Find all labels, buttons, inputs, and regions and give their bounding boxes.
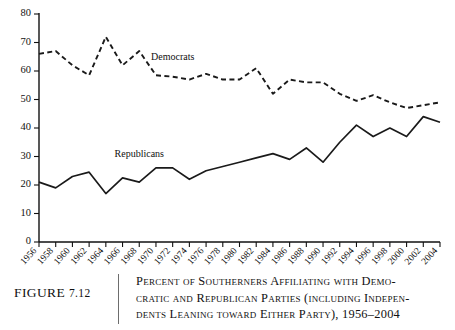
y-tick-label: 20 [21, 178, 32, 189]
series-line-democrats [39, 37, 440, 108]
series-label-republicans: Republicans [115, 148, 165, 159]
x-tick-label: 1970 [135, 245, 155, 265]
x-tick-label: 2002 [403, 245, 423, 265]
caption-line-2: cratic and Republican Parties (including… [136, 290, 447, 307]
figure-container: 0102030405060708019561958196019621964196… [0, 0, 455, 330]
figure-number: FIGURE 7.12 [0, 272, 118, 301]
y-tick-label: 40 [21, 121, 32, 132]
x-tick-label: 1980 [219, 245, 239, 265]
caption-line-1: Percent of Southerners Affiliating with … [136, 273, 447, 290]
y-tick-label: 10 [21, 207, 32, 218]
series-line-republicans [39, 117, 440, 194]
x-tick-label: 1984 [252, 245, 272, 265]
y-tick-label: 80 [21, 7, 32, 18]
caption-text: Percent of Southerners Affiliating with … [119, 272, 455, 323]
y-tick-label: 0 [26, 235, 31, 246]
caption-line-3: dents Leaning toward Either Party), 1956… [136, 306, 447, 323]
series-label-democrats: Democrats [151, 51, 194, 62]
x-tick-label: 1988 [286, 245, 306, 265]
x-tick-label: 2004 [419, 245, 439, 265]
x-tick-label: 1974 [169, 245, 189, 265]
x-tick-label: 1956 [18, 245, 38, 265]
x-tick-label: 1968 [119, 245, 139, 265]
x-tick-label: 1994 [336, 245, 356, 265]
x-tick-label: 1978 [202, 245, 222, 265]
x-tick-label: 1962 [68, 245, 88, 265]
x-tick-label: 1960 [52, 245, 72, 265]
chart-plot-area: 0102030405060708019561958196019621964196… [0, 0, 455, 265]
x-tick-label: 2000 [386, 245, 406, 265]
x-tick-label: 1964 [85, 245, 105, 265]
y-tick-label: 70 [21, 36, 32, 47]
y-tick-label: 60 [21, 64, 32, 75]
line-chart: 0102030405060708019561958196019621964196… [0, 0, 455, 265]
x-tick-label: 1982 [236, 245, 256, 265]
x-tick-label: 1976 [185, 245, 205, 265]
x-tick-label: 1986 [269, 245, 289, 265]
x-tick-label: 1996 [353, 245, 373, 265]
y-tick-label: 50 [21, 93, 32, 104]
figure-number-word: FIGURE [14, 285, 65, 300]
x-tick-label: 1958 [35, 245, 55, 265]
x-tick-label: 1998 [369, 245, 389, 265]
figure-caption: FIGURE 7.12 Percent of Southerners Affil… [0, 272, 455, 330]
figure-number-value: 7.12 [69, 287, 91, 299]
y-tick-label: 30 [21, 150, 32, 161]
x-tick-label: 1966 [102, 245, 122, 265]
x-tick-label: 1992 [319, 245, 339, 265]
x-tick-label: 1990 [302, 245, 322, 265]
x-tick-label: 1972 [152, 245, 172, 265]
